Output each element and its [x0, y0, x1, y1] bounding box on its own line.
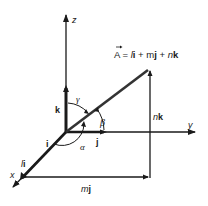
li-unit: i	[23, 159, 26, 169]
i-label: i	[46, 139, 49, 149]
x-axis-label: x	[9, 170, 15, 180]
vector-direction-cosine-diagram: z y x k j i li mj nk γ β α A = li + mj +…	[0, 0, 208, 206]
angle-gamma-arc	[68, 103, 89, 114]
nk-unit: k	[158, 112, 164, 122]
nk-label: nk	[153, 112, 164, 122]
vector-equation: A = li + mj + nk	[114, 46, 179, 61]
beta-label: β	[99, 117, 105, 128]
unit-vector-k	[63, 85, 69, 132]
equation-term2-scalar: m	[146, 49, 154, 60]
z-axis-label: z	[71, 15, 77, 25]
x-component-li	[20, 132, 66, 180]
equation-term3-unit: k	[173, 49, 179, 60]
mj-unit: j	[88, 184, 92, 194]
equation-plus2: +	[159, 49, 165, 60]
y-axis-label: y	[187, 120, 193, 130]
li-label: li	[21, 159, 26, 169]
equation-lhs: A	[114, 49, 121, 60]
j-label: j	[95, 137, 99, 147]
equation-plus1: +	[138, 49, 144, 60]
equation-term2-unit: j	[153, 49, 157, 60]
equation-term1-unit: i	[133, 49, 136, 60]
gamma-label: γ	[76, 94, 80, 104]
svg-text:A = li +: A = li + mj + nk	[114, 49, 179, 60]
alpha-label: α	[80, 142, 85, 152]
equation-equals: =	[122, 49, 128, 60]
unit-vector-j	[66, 130, 107, 135]
mj-label: mj	[81, 184, 91, 194]
k-label: k	[55, 105, 61, 115]
